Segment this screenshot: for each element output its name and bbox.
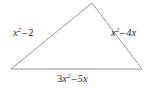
bottom-side-label: 3x2–5x [57,74,88,85]
left-label-term: 2 [28,27,33,38]
triangle-figure: x2–2 x2–4x 3x2–5x [0,0,157,89]
bottom-label-operator: – [71,73,78,84]
right-side-label: x2–4x [111,28,136,39]
left-side-label: x2–2 [13,28,34,39]
right-label-term: 4x [126,27,136,38]
bottom-label-term: 5x [78,73,88,84]
